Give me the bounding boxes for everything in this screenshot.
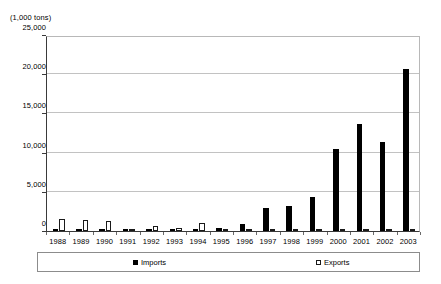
y-axis-tick-label: 25,000 bbox=[4, 24, 46, 32]
bar-exports bbox=[129, 229, 135, 231]
x-axis-tick-mark bbox=[93, 232, 94, 235]
bar-group bbox=[374, 37, 397, 231]
bar-exports bbox=[83, 220, 89, 231]
legend-item-label: Exports bbox=[324, 258, 349, 267]
x-axis-tick-mark bbox=[420, 232, 421, 235]
chart-legend: ImportsExports bbox=[37, 252, 420, 272]
bar-imports bbox=[403, 69, 409, 231]
x-axis-tick-mark bbox=[280, 232, 281, 235]
x-axis-tick-mark bbox=[303, 232, 304, 235]
legend-item: Exports bbox=[316, 258, 349, 267]
bar-imports bbox=[53, 229, 59, 231]
x-axis-tick-label: 1996 bbox=[233, 237, 256, 246]
bar-exports bbox=[410, 229, 416, 231]
x-axis-tick-mark bbox=[233, 232, 234, 235]
x-axis-tick-label: 1997 bbox=[256, 237, 279, 246]
x-axis-tick-mark bbox=[163, 232, 164, 235]
x-axis-tick-mark bbox=[350, 232, 351, 235]
x-axis-tick-mark bbox=[140, 232, 141, 235]
x-axis-tick-label: 2001 bbox=[350, 237, 373, 246]
open-square-icon bbox=[316, 260, 321, 265]
bar-group bbox=[398, 37, 421, 231]
bar-group bbox=[117, 37, 140, 231]
bar-group bbox=[328, 37, 351, 231]
y-axis-unit-caption: (1,000 tons) bbox=[10, 13, 51, 22]
legend-item: Imports bbox=[133, 258, 166, 267]
bar-group bbox=[70, 37, 93, 231]
bar-exports bbox=[176, 228, 182, 231]
x-axis-tick-label: 1994 bbox=[186, 237, 209, 246]
y-axis-tick-label: 20,000 bbox=[4, 63, 46, 71]
filled-square-icon bbox=[133, 260, 138, 265]
bar-group bbox=[351, 37, 374, 231]
x-axis-tick-mark bbox=[186, 232, 187, 235]
x-axis-tick-mark bbox=[210, 232, 211, 235]
bar-exports bbox=[316, 229, 322, 231]
bar-exports bbox=[153, 226, 159, 231]
bar-imports bbox=[216, 228, 222, 231]
x-axis-tick-label: 1998 bbox=[280, 237, 303, 246]
bar-group bbox=[304, 37, 327, 231]
bar-group bbox=[47, 37, 70, 231]
y-axis-tick-label: 10,000 bbox=[4, 142, 46, 150]
x-axis: 1988198919901991199219931994199519961997… bbox=[46, 232, 420, 254]
bar-imports bbox=[99, 229, 105, 231]
legend-item-label: Imports bbox=[141, 258, 166, 267]
bar-group bbox=[141, 37, 164, 231]
bar-group bbox=[187, 37, 210, 231]
bar-imports bbox=[146, 229, 152, 231]
bar-exports bbox=[59, 219, 65, 231]
bar-group bbox=[257, 37, 280, 231]
bar-imports bbox=[357, 124, 363, 231]
x-axis-tick-mark bbox=[116, 232, 117, 235]
bar-exports bbox=[363, 229, 369, 231]
bar-exports bbox=[199, 223, 205, 231]
bar-group bbox=[164, 37, 187, 231]
bar-imports bbox=[310, 197, 316, 231]
bar-imports bbox=[240, 224, 246, 231]
x-axis-tick-label: 1989 bbox=[69, 237, 92, 246]
bar-imports bbox=[123, 229, 129, 231]
x-axis-tick-label: 1992 bbox=[140, 237, 163, 246]
bar-imports bbox=[380, 142, 386, 231]
x-axis-tick-label: 2003 bbox=[397, 237, 420, 246]
bar-exports bbox=[223, 229, 229, 231]
x-axis-tick-label: 1995 bbox=[210, 237, 233, 246]
x-axis-tick-label: 2002 bbox=[373, 237, 396, 246]
bar-exports bbox=[386, 229, 392, 231]
x-axis-tick-mark bbox=[327, 232, 328, 235]
bar-exports bbox=[340, 229, 346, 231]
bar-exports bbox=[270, 229, 276, 231]
bar-exports bbox=[246, 229, 252, 231]
bar-imports bbox=[170, 229, 176, 231]
x-axis-tick-label: 1990 bbox=[93, 237, 116, 246]
bar-group bbox=[281, 37, 304, 231]
x-axis-tick-label: 1988 bbox=[46, 237, 69, 246]
bar-imports bbox=[193, 229, 199, 231]
bar-imports bbox=[286, 206, 292, 231]
x-axis-tick-mark bbox=[69, 232, 70, 235]
bar-group bbox=[94, 37, 117, 231]
x-axis-tick-label: 2000 bbox=[327, 237, 350, 246]
y-axis: 05,00010,00015,00020,00025,000 bbox=[0, 36, 46, 232]
bar-imports bbox=[76, 229, 82, 231]
x-axis-tick-label: 1993 bbox=[163, 237, 186, 246]
y-axis-tick-label: 0 bbox=[4, 220, 46, 228]
plot-area bbox=[46, 36, 420, 232]
y-axis-tick-label: 15,000 bbox=[4, 102, 46, 110]
bar-chart: (1,000 tons) 05,00010,00015,00020,00025,… bbox=[0, 0, 441, 284]
bar-exports bbox=[106, 221, 112, 231]
bar-group bbox=[211, 37, 234, 231]
x-axis-tick-mark bbox=[373, 232, 374, 235]
x-axis-tick-label: 1999 bbox=[303, 237, 326, 246]
x-axis-tick-mark bbox=[397, 232, 398, 235]
bar-group bbox=[234, 37, 257, 231]
x-axis-tick-label: 1991 bbox=[116, 237, 139, 246]
y-axis-tick-label: 5,000 bbox=[4, 181, 46, 189]
bar-imports bbox=[333, 149, 339, 231]
bar-imports bbox=[263, 208, 269, 231]
x-axis-tick-mark bbox=[46, 232, 47, 235]
x-axis-tick-mark bbox=[256, 232, 257, 235]
bar-exports bbox=[293, 229, 299, 231]
